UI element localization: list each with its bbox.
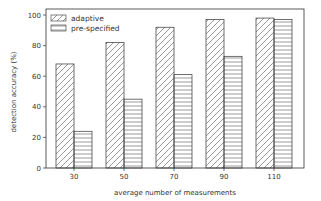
bar-adaptive-70 — [156, 27, 174, 168]
y-tick-label: 40 — [32, 103, 41, 111]
bar-adaptive-30 — [56, 64, 74, 168]
bar-pre-specified-110 — [274, 20, 292, 168]
x-tick-label: 110 — [267, 173, 280, 181]
x-tick-label: 50 — [120, 173, 129, 181]
bar-adaptive-50 — [106, 43, 124, 168]
bar-pre-specified-90 — [224, 56, 242, 168]
legend-label-adaptive: adaptive — [71, 14, 104, 23]
x-tick-label: 70 — [170, 173, 179, 181]
y-tick-label: 80 — [32, 42, 41, 50]
bar-pre-specified-50 — [124, 99, 142, 168]
x-tick-label: 90 — [220, 173, 229, 181]
y-tick-label: 60 — [32, 73, 41, 81]
bar-pre-specified-70 — [174, 75, 192, 168]
bar-adaptive-90 — [206, 20, 224, 168]
x-axis-label: average number of measurements — [114, 189, 236, 197]
x-tick-label: 30 — [70, 173, 79, 181]
bar-pre-specified-30 — [74, 131, 92, 168]
y-tick-label: 100 — [28, 12, 41, 20]
bars — [56, 18, 292, 168]
bar-chart: 02040608010030507090110 adaptivepre-spec… — [0, 0, 321, 201]
y-tick-label: 20 — [32, 134, 41, 142]
chart-container: 02040608010030507090110 adaptivepre-spec… — [0, 0, 321, 201]
bar-adaptive-110 — [256, 18, 274, 168]
legend: adaptivepre-specified — [51, 14, 120, 33]
legend-swatch-adaptive — [51, 15, 66, 21]
legend-swatch-pre-specified — [51, 25, 66, 31]
legend-label-pre-specified: pre-specified — [71, 24, 120, 33]
y-axis-label: detection accuracy (%) — [10, 51, 18, 132]
y-tick-label: 0 — [37, 165, 41, 173]
